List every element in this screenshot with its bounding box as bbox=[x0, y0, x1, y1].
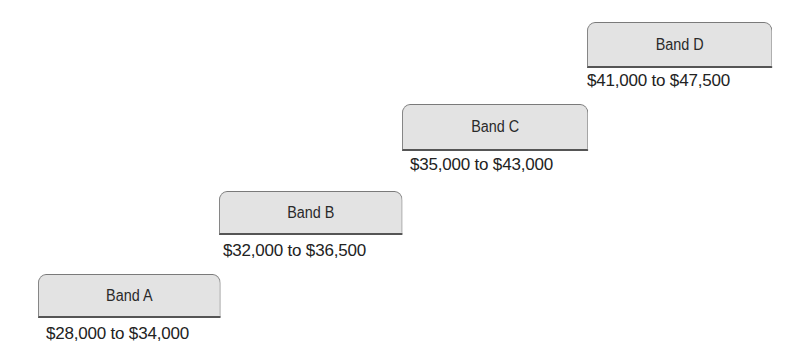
band-c-label: Band C bbox=[471, 118, 519, 136]
band-d-range: $41,000 to $47,500 bbox=[587, 71, 730, 91]
band-c-range: $35,000 to $43,000 bbox=[410, 155, 553, 175]
band-a-label: Band A bbox=[106, 287, 152, 305]
band-a-box: Band A bbox=[38, 274, 221, 318]
band-b-label: Band B bbox=[287, 204, 334, 222]
band-c-box: Band C bbox=[402, 104, 588, 151]
band-b-box: Band B bbox=[219, 191, 403, 235]
band-d-label: Band D bbox=[656, 36, 704, 54]
band-d-box: Band D bbox=[587, 22, 772, 68]
band-b-range: $32,000 to $36,500 bbox=[223, 241, 366, 261]
band-a-range: $28,000 to $34,000 bbox=[46, 324, 189, 344]
